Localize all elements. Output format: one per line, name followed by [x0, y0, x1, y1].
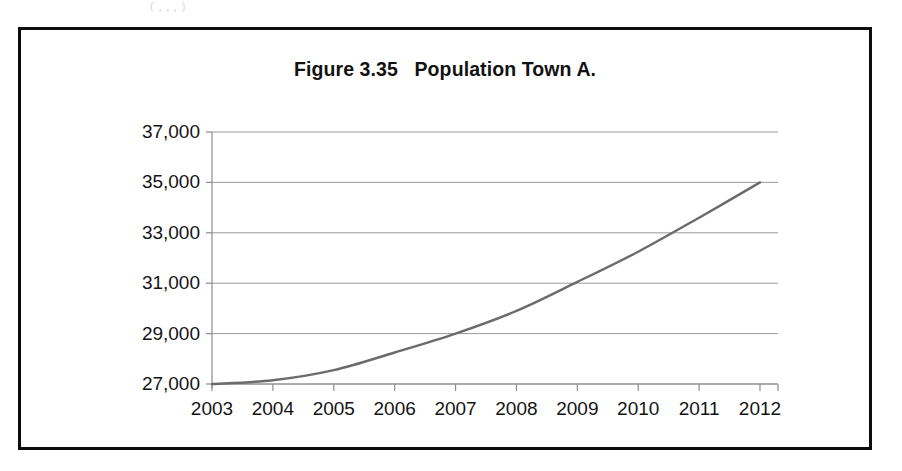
y-tick-label: 29,000 — [21, 323, 200, 345]
x-tick-label: 2009 — [556, 398, 598, 420]
line-chart: 27,00029,00031,00033,00035,00037,000 200… — [21, 30, 875, 453]
y-axis-ticks — [206, 132, 212, 384]
x-tick-label: 2005 — [313, 398, 355, 420]
x-tick-label: 2012 — [739, 398, 781, 420]
x-tick-label: 2010 — [617, 398, 659, 420]
figure-frame: Figure 3.35 Population Town A. 27,00029,… — [18, 27, 872, 450]
x-tick-label: 2004 — [252, 398, 294, 420]
y-tick-label: 35,000 — [21, 171, 200, 193]
x-tick-label: 2008 — [495, 398, 537, 420]
x-tick-label: 2006 — [374, 398, 416, 420]
y-tick-label: 31,000 — [21, 272, 200, 294]
x-tick-label: 2007 — [434, 398, 476, 420]
x-axis-ticks — [212, 384, 778, 391]
gridlines — [212, 132, 778, 384]
x-tick-label: 2003 — [191, 398, 233, 420]
page-bleed-text: ( , , , ) — [150, 0, 770, 12]
y-tick-label: 33,000 — [21, 222, 200, 244]
x-tick-label: 2011 — [679, 398, 720, 420]
y-tick-label: 37,000 — [21, 121, 200, 143]
y-tick-label: 27,000 — [21, 373, 200, 395]
